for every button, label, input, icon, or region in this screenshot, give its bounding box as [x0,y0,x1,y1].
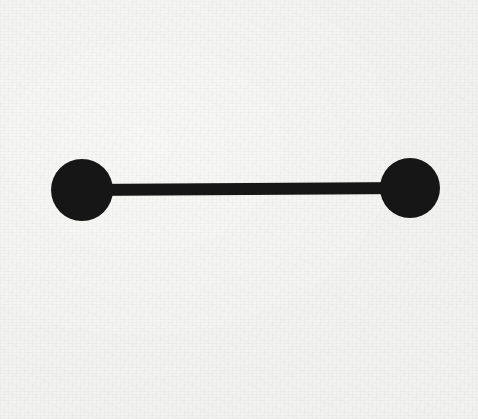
connector-bar [82,188,410,190]
graph-diagram [0,0,478,419]
left-node[interactable] [51,159,113,221]
right-node[interactable] [380,158,440,218]
figure-canvas [0,0,478,419]
